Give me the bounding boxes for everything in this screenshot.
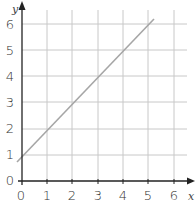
- y-tick-6: 6: [6, 17, 14, 32]
- x-tick-1: 1: [43, 188, 51, 203]
- x-tick-labels: 0 1 2 3 4 5 6: [17, 188, 178, 203]
- y-tick-4: 4: [6, 69, 14, 84]
- x-tick-6: 6: [170, 188, 178, 203]
- y-tick-1: 1: [6, 147, 14, 162]
- x-tick-0: 0: [17, 188, 25, 203]
- chart: 0 1 2 3 4 5 6 0 1 2 3 4 5 6 y x: [0, 0, 196, 207]
- y-axis: [19, 1, 26, 185]
- y-tick-2: 2: [6, 121, 14, 136]
- x-tick-2: 2: [68, 188, 76, 203]
- y-tick-labels: 0 1 2 3 4 5 6: [6, 17, 14, 188]
- y-tick-0: 0: [6, 173, 14, 188]
- y-axis-arrow-icon: [19, 1, 26, 10]
- grid: [22, 10, 187, 181]
- data-line: [17, 19, 154, 162]
- x-tick-4: 4: [119, 188, 127, 203]
- y-tick-3: 3: [6, 95, 14, 110]
- x-axis-label: x: [188, 190, 195, 203]
- x-axis-arrow-icon: [187, 178, 195, 185]
- y-axis-label: y: [11, 3, 19, 16]
- x-tick-3: 3: [94, 188, 102, 203]
- x-tick-5: 5: [144, 188, 152, 203]
- x-axis: [18, 178, 195, 185]
- y-tick-5: 5: [6, 43, 14, 58]
